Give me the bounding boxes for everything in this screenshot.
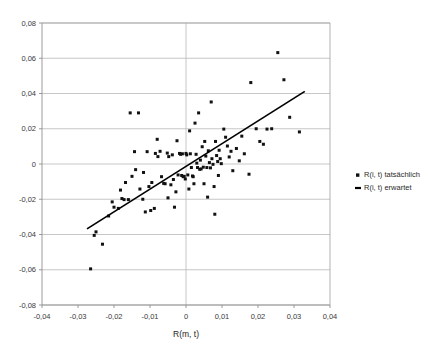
scatter-point (154, 152, 157, 155)
scatter-point (213, 185, 216, 188)
x-axis-tick-label: 0,02 (251, 312, 266, 321)
scatter-point (219, 157, 222, 160)
scatter-point (210, 100, 213, 103)
scatter-point (202, 166, 205, 169)
scatter-point (150, 181, 153, 184)
scatter-point (167, 155, 170, 158)
y-axis-tick-label: -0,08 (19, 301, 36, 310)
scatter-point (101, 243, 104, 246)
scatter-point (187, 188, 190, 191)
scatter-point (243, 152, 246, 155)
x-axis-tick-label: -0,02 (105, 312, 122, 321)
scatter-point (169, 183, 172, 186)
scatter-point (238, 159, 241, 162)
scatter-point (298, 130, 301, 133)
scatter-point (147, 185, 150, 188)
x-axis-tick-label: 0 (184, 312, 188, 321)
scatter-point (288, 116, 291, 119)
scatter-point (266, 128, 269, 131)
gridlines (42, 23, 330, 305)
legend-marker-square (356, 173, 359, 176)
scatter-chart: -0,08-0,06-0,04-0,0200,020,040,060,08 -0… (0, 0, 442, 355)
x-axis-tick-label: 0,04 (323, 312, 338, 321)
scatter-point (255, 127, 258, 130)
scatter-point (220, 162, 223, 165)
scatter-point (230, 150, 233, 153)
scatter-point (124, 181, 127, 184)
scatter-point (129, 111, 132, 114)
scatter-point (213, 213, 216, 216)
x-axis-tick-label: -0,01 (141, 312, 158, 321)
scatter-point (138, 188, 141, 191)
x-axis-tick-label: -0,03 (69, 312, 86, 321)
scatter-point (149, 209, 152, 212)
scatter-point (270, 127, 273, 130)
scatter-point (131, 175, 134, 178)
scatter-point (177, 173, 180, 176)
scatter-point (93, 234, 96, 237)
scatter-point (206, 196, 209, 199)
y-axis-tick-label: -0,02 (19, 195, 36, 204)
scatter-point (203, 140, 206, 143)
scatter-point (282, 78, 285, 81)
scatter-point (174, 190, 177, 193)
y-axis-tick-label: 0,08 (21, 19, 36, 28)
scatter-point (95, 230, 98, 233)
scatter-point (240, 135, 243, 138)
scatter-point (228, 155, 231, 158)
scatter-point (249, 81, 252, 84)
x-axis-title: R(m, t) (173, 329, 199, 339)
scatter-point (276, 51, 279, 54)
x-axis-tick-label: -0,04 (33, 312, 50, 321)
scatter-point (156, 155, 159, 158)
scatter-point (218, 149, 221, 152)
y-axis-tick-label: 0,04 (21, 89, 36, 98)
y-axis-tick-label: 0,02 (21, 124, 36, 133)
axis-ticks (39, 23, 330, 308)
scatter-point (89, 267, 92, 270)
scatter-point (183, 175, 186, 178)
scatter-point (171, 153, 174, 156)
scatter-point (186, 173, 189, 176)
x-axis-tick-label: 0,03 (287, 312, 302, 321)
scatter-point (113, 206, 116, 209)
y-axis-tick-label: -0,06 (19, 265, 36, 274)
scatter-point (181, 152, 184, 155)
scatter-point (195, 153, 198, 156)
y-axis-tick-label: 0,06 (21, 54, 36, 63)
scatter-point (195, 162, 198, 165)
scatter-point (176, 139, 179, 142)
legend-entry-label: R(i, t) erwartet (364, 183, 412, 192)
scatter-point (190, 166, 193, 169)
x-axis-tick-label: 0,01 (215, 312, 230, 321)
y-axis-tick-labels: -0,08-0,06-0,04-0,0200,020,040,060,08 (19, 19, 36, 310)
scatter-point (208, 161, 211, 164)
scatter-point (160, 175, 163, 178)
legend-entry-label: R(i, t) tatsächlich (364, 170, 420, 179)
scatter-point (144, 210, 147, 213)
scatter-point (235, 147, 238, 150)
y-axis-tick-label: 0 (32, 160, 36, 169)
scatter-point (216, 160, 219, 163)
scatter-point (127, 198, 130, 201)
scatter-point (172, 178, 175, 181)
scatter-point (226, 145, 229, 148)
scatter-point (167, 196, 170, 199)
scatter-point (159, 150, 162, 153)
scatter-point (119, 189, 122, 192)
scatter-point (184, 177, 187, 180)
scatter-point (248, 173, 251, 176)
scatter-point (231, 169, 234, 172)
chart-canvas: -0,08-0,06-0,04-0,0200,020,040,060,08 -0… (0, 0, 442, 355)
scatter-point (142, 171, 145, 174)
scatter-point (222, 128, 225, 131)
scatter-point (173, 206, 176, 209)
scatter-point (210, 157, 213, 160)
expected-return-line (87, 91, 305, 228)
scatter-point (153, 207, 156, 210)
scatter-point (146, 150, 149, 153)
scatter-point (205, 166, 208, 169)
scatter-point (189, 152, 192, 155)
scatter-point (185, 153, 188, 156)
scatter-point (212, 163, 215, 166)
